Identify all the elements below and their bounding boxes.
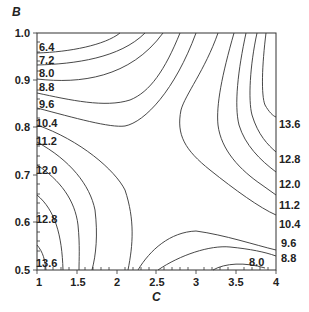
y-tick-label: 0.5 [15,264,30,276]
contour-label: 12.0 [36,164,57,176]
contour-label: 11.2 [279,199,300,211]
contour-label: 8.8 [39,81,54,93]
right-contour-labels: 13.6 12.8 12.0 11.2 10.4 9.6 8.8 [279,118,301,264]
contour-label: 8.0 [39,67,54,79]
y-tick-label: 1.0 [15,27,30,39]
y-tick-label: 0.8 [15,121,30,133]
x-axis-title: C [152,290,161,304]
y-tick-label: 0.9 [15,74,30,86]
contour-label: 12.0 [279,178,300,190]
y-tick-label: 0.7 [15,169,30,181]
contour-label: 10.4 [279,218,301,230]
contour-label: 11.2 [36,135,57,147]
contour-lines [37,33,276,270]
x-tick-label: 3 [193,276,199,288]
contour-label: 13.6 [36,257,57,269]
y-tick-label: 0.6 [15,216,30,228]
contour-label: 12.8 [36,213,57,225]
x-tick-label: 2.5 [149,276,164,288]
contour-label: 10.4 [36,117,58,129]
x-tick-label: 1.5 [70,276,85,288]
x-tick-label: 3.5 [228,276,243,288]
contour-label: 8.8 [281,252,296,264]
x-tick-label: 4 [273,276,280,288]
x-axis-ticks: 1 1.5 2 2.5 3 3.5 4 [36,276,280,288]
contour-label: 6.4 [39,41,55,53]
contour-label: 12.8 [279,153,300,165]
y-axis-title: B [12,5,21,19]
contour-label: 9.6 [39,98,54,110]
contour-label-inner: 8.0 [249,256,264,268]
plot-frame [37,33,276,270]
x-tick-label: 1 [36,276,42,288]
contour-chart: B C 1.0 0.9 0.8 0.7 0.6 0.5 1 1.5 2 2.5 … [0,0,309,312]
x-tick-label: 2 [114,276,120,288]
contour-label: 13.6 [279,118,300,130]
y-axis-ticks: 1.0 0.9 0.8 0.7 0.6 0.5 [15,27,30,276]
contour-label: 9.6 [281,237,296,249]
left-contour-labels: 6.4 7.2 8.0 8.8 9.6 10.4 11.2 12.0 12.8 … [36,41,58,269]
contour-label: 7.2 [39,54,54,66]
